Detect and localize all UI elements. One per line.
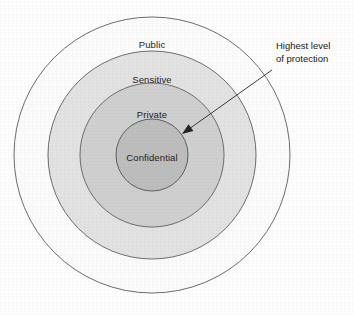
annotation-line-2: of protection	[276, 53, 330, 66]
ring-label-sensitive: Sensitive	[132, 74, 171, 85]
ring-label-public: Public	[139, 39, 165, 50]
ring-label-private: Private	[137, 109, 167, 120]
ring-label-confidential: Confidential	[126, 152, 177, 163]
annotation-line-1: Highest level	[276, 40, 330, 53]
annotation-callout: Highest level of protection	[276, 40, 330, 65]
diagram-canvas: Public Sensitive Private Confidential Hi…	[0, 0, 354, 315]
